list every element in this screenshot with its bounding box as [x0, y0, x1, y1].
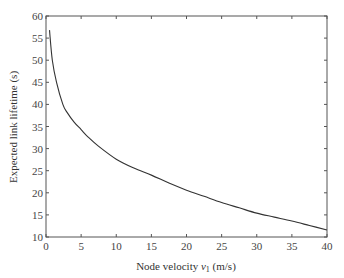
x-tick-label: 25	[216, 240, 228, 252]
x-tick-label: 5	[78, 240, 84, 252]
y-tick-label: 15	[32, 209, 44, 221]
y-tick-label: 60	[32, 10, 44, 22]
y-tick-label: 35	[32, 121, 44, 133]
x-axis-label-main: Node velocity	[136, 260, 201, 272]
x-tick-label: 30	[251, 240, 263, 252]
x-tick-label: 0	[43, 240, 49, 252]
line-chart: 0510152025303540 1015202530354045505560 …	[0, 0, 344, 278]
x-tick-labels: 0510152025303540	[43, 240, 333, 252]
x-tick-label: 40	[322, 240, 334, 252]
plot-border	[46, 16, 327, 237]
data-line	[50, 30, 327, 230]
x-tick-label: 10	[111, 240, 123, 252]
plot-frame	[46, 16, 327, 237]
x-tick-label: 35	[286, 240, 298, 252]
y-tick-label: 40	[32, 98, 44, 110]
y-tick-label: 55	[32, 32, 44, 44]
y-tick-labels: 1015202530354045505560	[32, 10, 44, 243]
y-tick-label: 45	[32, 76, 44, 88]
x-axis-label-unit: (m/s)	[210, 260, 236, 273]
y-tick-label: 30	[32, 143, 44, 155]
x-axis-label: Node velocity v1 (m/s)	[136, 260, 236, 274]
y-axis-label: Expected link lifetime (s)	[7, 71, 20, 183]
x-tick-label: 20	[181, 240, 193, 252]
axis-ticks	[46, 16, 327, 237]
y-tick-label: 20	[32, 187, 44, 199]
y-tick-label: 10	[32, 231, 44, 243]
y-tick-label: 50	[32, 54, 44, 66]
x-tick-label: 15	[146, 240, 158, 252]
y-tick-label: 25	[32, 165, 44, 177]
